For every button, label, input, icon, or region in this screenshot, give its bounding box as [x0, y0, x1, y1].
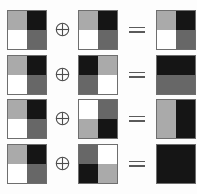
tile-cell-top-right: [27, 100, 46, 119]
tile-cell-bottom-right: [27, 75, 46, 94]
circled-plus-icon: [47, 144, 78, 184]
tile-cell-top-right: [176, 56, 195, 75]
tile-cell-bottom-left: [79, 164, 98, 183]
figure-caption: [3, 0, 73, 6]
tile-cell-bottom-left: [79, 119, 98, 138]
tile-cell-top-left: [79, 145, 98, 164]
tile-cell-bottom-left: [79, 30, 98, 49]
equation-row: [0, 141, 197, 186]
tile-cell-top-right: [176, 11, 195, 30]
tile-cell-bottom-left: [8, 30, 27, 49]
tile-cell-bottom-left: [157, 30, 176, 49]
tile-cell-top-right: [98, 100, 117, 119]
tile-cell-bottom-right: [98, 164, 117, 183]
tile-cell-top-left: [79, 100, 98, 119]
equals-icon: [118, 144, 156, 184]
circled-plus-icon: [47, 10, 78, 50]
tile-operand-a: [7, 55, 47, 95]
tile-operand-b: [78, 55, 118, 95]
tile-cell-bottom-right: [176, 75, 195, 94]
circled-plus-icon: [47, 55, 78, 95]
tile-cell-top-left: [157, 145, 176, 164]
figure-canvas: [0, 0, 197, 194]
tile-cell-bottom-right: [98, 119, 117, 138]
equals-icon: [118, 55, 156, 95]
tile-cell-top-right: [27, 56, 46, 75]
tile-cell-bottom-right: [98, 30, 117, 49]
tile-operand-a: [7, 144, 47, 184]
tile-cell-top-right: [98, 56, 117, 75]
tile-cell-bottom-left: [157, 75, 176, 94]
tile-cell-top-right: [176, 100, 195, 119]
tile-cell-bottom-left: [8, 75, 27, 94]
tile-cell-top-right: [98, 11, 117, 30]
tile-cell-top-left: [79, 11, 98, 30]
tile-cell-top-left: [8, 145, 27, 164]
tile-result: [156, 144, 196, 184]
tile-cell-top-right: [27, 11, 46, 30]
tile-cell-top-left: [79, 56, 98, 75]
tile-result: [156, 99, 196, 139]
tile-cell-bottom-right: [27, 164, 46, 183]
tile-cell-bottom-left: [8, 119, 27, 138]
tile-operand-a: [7, 99, 47, 139]
equals-icon: [118, 99, 156, 139]
tile-result: [156, 10, 196, 50]
tile-cell-top-left: [8, 100, 27, 119]
tile-cell-bottom-right: [27, 30, 46, 49]
tile-cell-top-left: [8, 56, 27, 75]
equals-icon: [118, 10, 156, 50]
tile-cell-bottom-right: [98, 75, 117, 94]
circled-plus-icon: [47, 99, 78, 139]
tile-cell-bottom-left: [157, 119, 176, 138]
tile-operand-b: [78, 144, 118, 184]
tile-operand-b: [78, 99, 118, 139]
equation-row: [0, 52, 197, 97]
tile-cell-bottom-left: [79, 75, 98, 94]
tile-cell-top-left: [157, 100, 176, 119]
tile-cell-bottom-right: [27, 119, 46, 138]
tile-cell-bottom-left: [8, 164, 27, 183]
tile-cell-bottom-right: [176, 164, 195, 183]
tile-cell-top-left: [8, 11, 27, 30]
tile-cell-top-right: [27, 145, 46, 164]
tile-operand-a: [7, 10, 47, 50]
tile-cell-top-right: [98, 145, 117, 164]
tile-result: [156, 55, 196, 95]
equation-row: [0, 7, 197, 52]
tile-cell-top-right: [176, 145, 195, 164]
tile-cell-bottom-left: [157, 164, 176, 183]
tile-operand-b: [78, 10, 118, 50]
tile-cell-bottom-right: [176, 119, 195, 138]
tile-cell-top-left: [157, 56, 176, 75]
tile-cell-top-left: [157, 11, 176, 30]
tile-cell-bottom-right: [176, 30, 195, 49]
equation-row: [0, 96, 197, 141]
